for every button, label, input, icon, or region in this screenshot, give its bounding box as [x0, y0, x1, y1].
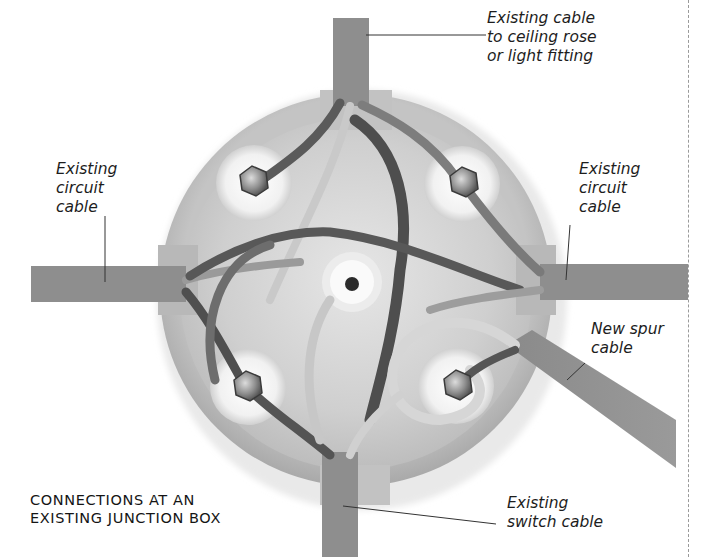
right-cable-sheath	[540, 264, 688, 300]
label-line: Existing	[56, 160, 117, 179]
caption-line: CONNECTIONS AT AN	[30, 491, 221, 509]
left-cable-sheath	[31, 266, 186, 302]
caption-line: EXISTING JUNCTION BOX	[30, 509, 221, 527]
label-line: cable	[56, 198, 117, 217]
leader-bottom	[343, 506, 496, 524]
label-line: cable	[579, 198, 640, 217]
label-line: Existing	[579, 160, 640, 179]
label-line: New spur	[591, 320, 664, 339]
label-line: Existing	[507, 494, 603, 513]
label-line: cable	[591, 339, 664, 358]
label-line: switch cable	[507, 513, 603, 532]
center-fixing-hole	[345, 277, 359, 291]
label-ceiling-rose-cable: Existing cable to ceiling rose or light …	[487, 9, 597, 66]
label-line: Existing cable	[487, 9, 597, 28]
label-line: circuit	[56, 179, 117, 198]
bottom-cable-sheath	[322, 452, 358, 557]
label-line: or light fitting	[487, 47, 597, 66]
figure-caption: CONNECTIONS AT AN EXISTING JUNCTION BOX	[30, 491, 221, 527]
label-line: to ceiling rose	[487, 28, 597, 47]
label-line: circuit	[579, 179, 640, 198]
label-left-circuit-cable: Existing circuit cable	[56, 160, 117, 217]
top-cable-sheath	[333, 18, 369, 106]
label-right-circuit-cable: Existing circuit cable	[579, 160, 640, 217]
junction-box-figure: Existing cable to ceiling rose or light …	[0, 0, 703, 557]
label-switch-cable: Existing switch cable	[507, 494, 603, 532]
page-column-divider	[688, 0, 689, 557]
junction-box-illustration	[0, 0, 703, 557]
label-new-spur-cable: New spur cable	[591, 320, 664, 358]
